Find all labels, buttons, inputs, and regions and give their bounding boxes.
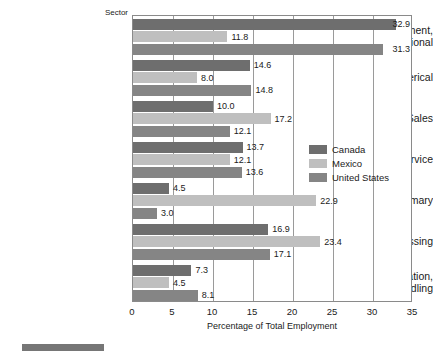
bar-value-label: 32.9 [390,19,412,30]
bar-mexico [133,154,230,165]
bar-value-label: 13.7 [245,142,267,153]
bar-row: 31.3 [133,44,413,55]
bar-value-label: 13.6 [244,167,266,178]
legend-label-mexico: Mexico [332,158,362,169]
legend-item-united-states: United States [309,172,389,183]
bar-value-label: 8.0 [199,72,216,83]
bar-row: 8.0 [133,72,413,83]
bar-value-label: 17.2 [273,113,295,124]
bar-chart: Sector Management, Technical, Profession… [0,0,433,355]
bar-value-label: 4.5 [171,277,188,288]
bar-row: 12.1 [133,126,413,137]
bar-united-states [133,85,251,96]
legend-swatch-united-states [309,173,327,182]
x-tick-label: 20 [287,306,298,317]
bar-united-states [133,290,198,301]
legend-label-united-states: United States [332,172,389,183]
bar-value-label: 22.9 [318,195,340,206]
bar-row: 23.4 [133,236,413,247]
bar-row: 32.9 [133,19,413,30]
bar-mexico [133,236,320,247]
bar-value-label: 31.3 [390,44,412,55]
bar-mexico [133,195,316,206]
bar-value-label: 14.6 [252,60,274,71]
bar-value-label: 14.8 [253,85,275,96]
bar-row: 17.1 [133,249,413,260]
bar-row: 7.3 [133,265,413,276]
bar-mexico [133,113,271,124]
y-axis-title: Sector [0,8,128,17]
legend: Canada Mexico United States [309,144,389,183]
x-tick-label: 15 [247,306,258,317]
bar-united-states [133,249,270,260]
bar-value-label: 7.3 [193,265,210,276]
legend-swatch-canada [309,145,327,154]
bar-united-states [133,126,230,137]
x-tick-label: 10 [207,306,218,317]
bar-value-label: 17.1 [272,249,294,260]
bar-row: 14.8 [133,85,413,96]
bar-united-states [133,208,157,219]
x-tick-label: 35 [407,306,418,317]
footer-rule [22,344,104,351]
bar-value-label: 4.5 [171,183,188,194]
bar-value-label: 16.9 [270,224,292,235]
bar-row: 17.2 [133,113,413,124]
bar-mexico [133,72,197,83]
legend-item-canada: Canada [309,144,389,155]
bar-row: 3.0 [133,208,413,219]
legend-label-canada: Canada [332,144,365,155]
x-tick-label: 5 [169,306,174,317]
bar-row: 22.9 [133,195,413,206]
bar-canada [133,60,250,71]
bar-value-label: 10.0 [215,101,237,112]
bar-row: 16.9 [133,224,413,235]
bar-value-label: 3.0 [159,208,176,219]
bar-mexico [133,277,169,288]
bar-canada [133,101,213,112]
x-tick-label: 0 [129,306,134,317]
bar-value-label: 23.4 [322,236,344,247]
bar-value-label: 8.1 [200,290,217,301]
bar-canada [133,183,169,194]
bar-canada [133,265,191,276]
bar-value-label: 12.1 [232,126,254,137]
bar-canada [133,142,243,153]
x-tick-label: 30 [367,306,378,317]
bar-row: 14.6 [133,60,413,71]
legend-swatch-mexico [309,159,327,168]
bar-row: 8.1 [133,290,413,301]
bar-united-states [133,44,383,55]
bar-canada [133,19,396,30]
bar-row: 4.5 [133,183,413,194]
bar-mexico [133,31,227,42]
bar-value-label: 11.8 [229,31,250,42]
bar-row: 10.0 [133,101,413,112]
bar-united-states [133,167,242,178]
plot-area: 32.911.831.314.68.014.810.017.212.113.71… [132,15,412,302]
x-axis-title: Percentage of Total Employment [132,321,412,331]
bar-value-label: 12.1 [232,154,254,165]
bar-canada [133,224,268,235]
bar-row: 4.5 [133,277,413,288]
x-tick-label: 25 [327,306,338,317]
bar-row: 11.8 [133,31,413,42]
legend-item-mexico: Mexico [309,158,389,169]
